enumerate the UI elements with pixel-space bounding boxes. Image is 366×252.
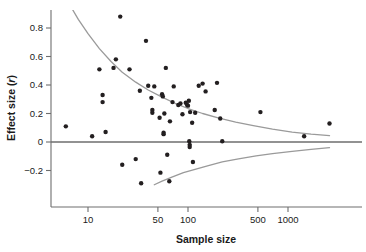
data-point [90, 134, 94, 138]
data-point [144, 39, 148, 43]
x-tick-label: 10 [83, 214, 94, 225]
data-point [180, 112, 184, 116]
data-point [215, 81, 219, 85]
data-point [150, 111, 154, 115]
y-tick-label: 0.4 [30, 79, 43, 90]
data-point [188, 145, 192, 149]
y-axis-title-text: Effect size ( [5, 82, 17, 141]
x-tick-label: 100 [180, 214, 196, 225]
data-point [218, 116, 222, 120]
data-point [118, 14, 122, 18]
data-point [203, 89, 207, 93]
y-tick-label: 0.8 [30, 22, 43, 33]
y-axis-title: Effect size (r) [5, 75, 17, 141]
scatter-plot-svg: −0.200.20.40.60.8 10501005001000 Sample … [0, 0, 366, 252]
y-tick-label: 0.6 [30, 51, 43, 62]
data-point [178, 101, 182, 105]
data-point [146, 84, 150, 88]
x-axis-ticks: 10501005001000 [83, 207, 299, 225]
x-tick-label: 1000 [277, 214, 298, 225]
data-point [97, 67, 101, 71]
data-point [138, 89, 142, 93]
data-point [190, 121, 194, 125]
data-point [220, 139, 224, 143]
data-point [127, 67, 131, 71]
data-point [158, 170, 162, 174]
data-point [157, 116, 161, 120]
funnel-plot-figure: −0.200.20.40.60.8 10501005001000 Sample … [0, 0, 366, 252]
data-point [114, 57, 118, 61]
x-tick-label: 500 [250, 214, 266, 225]
data-points [64, 14, 332, 185]
data-point [258, 110, 262, 114]
y-tick-label: 0.2 [30, 108, 43, 119]
y-tick-label: −0.2 [24, 165, 43, 176]
data-point [161, 132, 165, 136]
data-point [191, 160, 195, 164]
data-point [193, 111, 197, 115]
data-point [100, 100, 104, 104]
data-point [197, 84, 201, 88]
y-axis-title-paren: ) [5, 75, 17, 79]
data-point [103, 130, 107, 134]
data-point [186, 103, 190, 107]
data-point [302, 134, 306, 138]
data-point [152, 84, 156, 88]
data-point [327, 121, 331, 125]
data-point [172, 84, 176, 88]
data-point [167, 179, 171, 183]
data-point [168, 119, 172, 123]
data-point [100, 93, 104, 97]
data-point [64, 124, 68, 128]
data-point [213, 108, 217, 112]
funnel-upper-curve [73, 9, 330, 135]
data-point [134, 157, 138, 161]
funnel-lower-curve [154, 148, 329, 185]
plot-axes [51, 10, 362, 207]
data-point [164, 66, 168, 70]
data-point [149, 96, 153, 100]
data-point [187, 98, 191, 102]
y-tick-label: 0 [38, 136, 43, 147]
data-point [162, 111, 166, 115]
data-point [170, 100, 174, 104]
x-axis-title: Sample size [176, 233, 236, 245]
data-point [188, 110, 192, 114]
funnel-confidence-curves [73, 9, 330, 184]
data-point [139, 181, 143, 185]
data-point [161, 94, 165, 98]
data-point [200, 81, 204, 85]
data-point [165, 153, 169, 157]
x-tick-label: 50 [153, 214, 164, 225]
data-point [120, 163, 124, 167]
data-point [111, 66, 115, 70]
y-axis-ticks: −0.200.20.40.60.8 [24, 22, 51, 176]
